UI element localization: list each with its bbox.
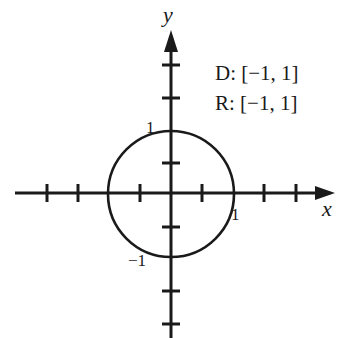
domain-text: D: [−1, 1]	[215, 58, 299, 88]
y-axis-label: y	[163, 2, 173, 28]
y-tick-label-1: 1	[146, 118, 155, 138]
x-tick-label-1: 1	[231, 205, 240, 225]
y-axis-arrow-icon	[164, 30, 178, 52]
range-text: R: [−1, 1]	[215, 88, 297, 118]
x-axis-label: x	[322, 196, 332, 222]
coordinate-plane	[0, 0, 347, 338]
y-tick-label-neg1: −1	[128, 251, 146, 271]
